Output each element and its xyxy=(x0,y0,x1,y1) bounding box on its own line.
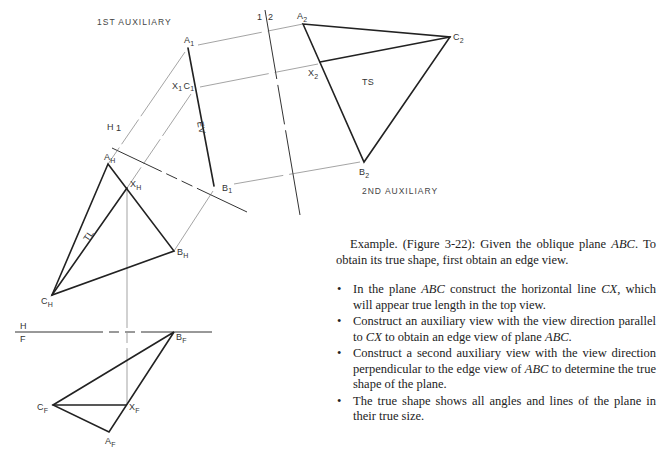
projector-a-h-1 xyxy=(108,52,185,164)
first-auxiliary-caption: 1ST AUXILIARY xyxy=(97,17,172,27)
projector-x-1-2 xyxy=(200,64,318,87)
projector-b-h-1 xyxy=(174,191,213,251)
true-shape-label: TS xyxy=(362,77,374,87)
fold-label-1-top: 1 xyxy=(116,123,121,133)
point-c2: C2 xyxy=(453,32,464,44)
fold-label-h: H xyxy=(107,122,114,132)
example-intro: Example. (Figure 3-22): Given the obliqu… xyxy=(336,237,656,268)
fold-label-2: 2 xyxy=(268,12,273,22)
true-length-label: TL xyxy=(81,228,96,243)
point-a1: A1 xyxy=(184,35,195,47)
point-xh: XH xyxy=(130,179,142,191)
point-bf: BF xyxy=(176,332,187,344)
top-view-triangle xyxy=(52,164,174,295)
step-item: Construct an auxiliary view with the vie… xyxy=(336,314,656,345)
projector-b-1-2 xyxy=(234,162,360,184)
point-ah: AH xyxy=(104,152,116,164)
second-auxiliary-caption: 2ND AUXILIARY xyxy=(362,186,438,196)
projector-x-h-1 xyxy=(127,94,191,188)
point-ch: CH xyxy=(41,296,53,308)
point-x1-c1: X1C1 xyxy=(172,81,195,92)
true-shape-triangle xyxy=(303,24,450,162)
example-text: Example. (Figure 3-22): Given the obliqu… xyxy=(336,237,656,426)
fold-label-1: 1 xyxy=(257,12,262,22)
point-cf: CF xyxy=(37,402,48,414)
fold-label-f: F xyxy=(20,334,26,344)
step-item: Construct a second auxiliary view with t… xyxy=(336,346,656,393)
point-xf: XF xyxy=(129,402,140,414)
step-item: In the plane ABC construct the horizonta… xyxy=(336,282,656,313)
front-view-triangle xyxy=(53,332,174,432)
point-b2: B2 xyxy=(359,167,370,179)
steps-list: In the plane ABC construct the horizonta… xyxy=(336,282,656,425)
point-x2: X2 xyxy=(308,68,319,80)
point-b1: B1 xyxy=(222,183,233,194)
fold-line-1-2 xyxy=(265,10,300,215)
point-bh: BH xyxy=(177,247,189,259)
projector-a-1-2 xyxy=(198,24,303,45)
fold-label-h-front: H xyxy=(20,321,27,331)
intro-abc: ABC xyxy=(611,237,635,251)
edge-view-label: EV xyxy=(195,120,207,134)
point-af: AF xyxy=(105,436,116,448)
step-item: The true shape shows all angles and line… xyxy=(336,394,656,425)
point-a2: A2 xyxy=(297,11,308,23)
true-shape-cx-line xyxy=(320,37,450,62)
edge-view-line xyxy=(188,48,214,186)
intro-text: Example. (Figure 3-22): Given the obliqu… xyxy=(350,237,611,251)
